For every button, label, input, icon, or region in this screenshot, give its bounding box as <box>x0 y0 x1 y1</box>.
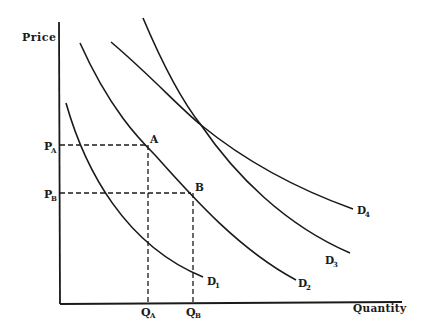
svg-text:2: 2 <box>306 283 311 292</box>
svg-text:B: B <box>51 194 57 203</box>
svg-text:A: A <box>149 311 156 320</box>
demand-curves-diagram: Price Quantity P A P B Q A Q B A <box>0 0 421 335</box>
demand-curve-d2 <box>80 43 296 280</box>
curve-label-d1: D 1 <box>207 275 220 290</box>
svg-text:3: 3 <box>333 260 338 269</box>
point-label-b: B <box>195 181 204 193</box>
x-axis <box>60 302 402 304</box>
y-axis <box>59 22 60 304</box>
x-axis-label: Quantity <box>353 302 407 315</box>
demand-curve-d3 <box>143 18 350 253</box>
svg-text:B: B <box>195 311 201 320</box>
y-axis-label: Price <box>22 31 56 44</box>
price-label-pb: P B <box>44 188 57 203</box>
svg-text:4: 4 <box>365 210 370 219</box>
quantity-label-qb: Q B <box>186 306 201 320</box>
diagram-canvas: Price Quantity P A P B Q A Q B A <box>0 0 421 335</box>
quantity-label-qa: Q A <box>141 306 156 320</box>
demand-curve-d4 <box>111 42 353 209</box>
demand-curve-d1 <box>66 103 203 277</box>
curve-label-d3: D 3 <box>325 254 338 269</box>
price-label-pa: P A <box>44 140 57 155</box>
curve-label-d4: D 4 <box>357 204 370 219</box>
curve-label-d2: D 2 <box>298 277 311 292</box>
svg-text:A: A <box>50 146 57 155</box>
svg-text:1: 1 <box>215 281 220 290</box>
point-label-a: A <box>149 133 159 145</box>
